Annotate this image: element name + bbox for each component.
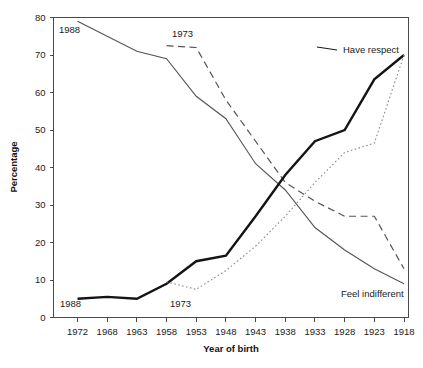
x-tick-label: 1953 [186, 326, 207, 337]
x-tick-label: 1928 [334, 326, 355, 337]
x-tick-label: 1948 [215, 326, 236, 337]
x-tick-label: 1933 [304, 326, 325, 337]
x-tick-label: 1923 [364, 326, 385, 337]
x-tick-label: 1972 [67, 326, 88, 337]
series-line [78, 21, 405, 284]
y-tick-label: 10 [35, 274, 46, 285]
x-tick-label: 1963 [126, 326, 147, 337]
y-tick-label: 70 [35, 49, 46, 60]
y-tick-label: 40 [35, 162, 46, 173]
y-tick-label: 50 [35, 124, 46, 135]
series-line [78, 55, 405, 299]
x-axis: 1972196819631958195319481943193819331928… [67, 318, 415, 337]
series-layer [78, 21, 405, 299]
anno-bottom-1973: 1973 [170, 298, 191, 309]
plot-frame [54, 18, 409, 318]
x-tick-label: 1938 [275, 326, 296, 337]
y-tick-label: 60 [35, 87, 46, 98]
x-axis-title: Year of birth [203, 343, 259, 354]
y-axis-title: Percentage [8, 141, 19, 192]
anno-bottom-1988: 1988 [60, 298, 81, 309]
series-line [167, 46, 404, 269]
anno-have-respect: Have respect [343, 44, 399, 55]
x-tick-label: 1918 [393, 326, 414, 337]
x-tick-label: 1958 [156, 326, 177, 337]
anno-top-1973: 1973 [172, 28, 193, 39]
axis-lines [54, 18, 409, 318]
y-tick-label: 30 [35, 199, 46, 210]
x-tick-label: 1968 [97, 326, 118, 337]
chart-container: 01020304050607080 1972196819631958195319… [0, 0, 423, 368]
line-chart: 01020304050607080 1972196819631958195319… [0, 0, 423, 368]
anno-top-left-1988: 1988 [59, 24, 80, 35]
y-tick-label: 80 [35, 12, 46, 23]
y-tick-label: 20 [35, 237, 46, 248]
anno-feel-indifferent: Feel indifferent [341, 288, 404, 299]
x-tick-label: 1943 [245, 326, 266, 337]
y-axis: 01020304050607080 [35, 12, 54, 323]
have-respect-leader [317, 47, 337, 50]
y-tick-label: 0 [40, 312, 45, 323]
